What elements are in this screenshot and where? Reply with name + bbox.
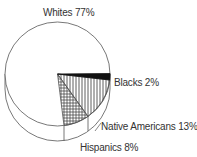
label-native-americans: Native Americans 13% bbox=[101, 121, 197, 132]
pie-chart bbox=[0, 0, 197, 157]
label-hispanics: Hispanics 8% bbox=[80, 142, 138, 153]
label-blacks: Blacks 2% bbox=[114, 77, 159, 88]
label-whites: Whites 77% bbox=[43, 7, 94, 18]
